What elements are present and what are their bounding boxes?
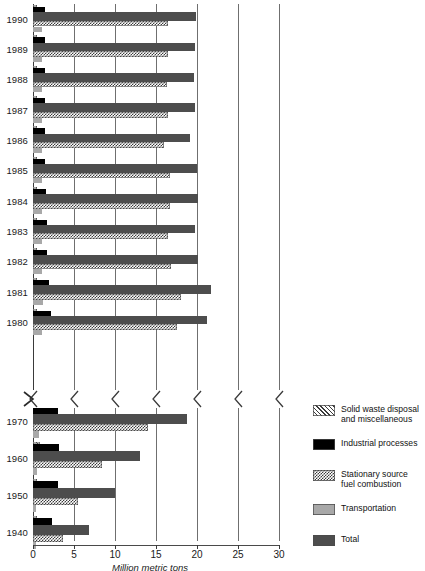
legend-label-2: Stationary sourcefuel combustion — [341, 469, 425, 490]
legend-label-4: Total — [341, 534, 425, 544]
legend-swatch-transportation — [313, 504, 335, 515]
x-tick-label-20: 20 — [185, 549, 209, 560]
x-tick-label-0: 0 — [21, 549, 45, 560]
plot-area — [0, 0, 300, 545]
chart-legend: Solid waste disposaland miscellaneousInd… — [313, 404, 425, 565]
y-axis-label-1988: 1988 — [0, 74, 28, 85]
y-axis-label-1960: 1960 — [0, 453, 28, 464]
x-tick-label-25: 25 — [226, 549, 250, 560]
y-axis-label-1989: 1989 — [0, 44, 28, 55]
legend-item-0: Solid waste disposaland miscellaneous — [313, 404, 425, 425]
y-axis-label-1987: 1987 — [0, 105, 28, 116]
y-axis-label-1982: 1982 — [0, 256, 28, 267]
legend-item-4: Total — [313, 534, 425, 552]
legend-item-3: Transportation — [313, 503, 425, 521]
x-tick-label-15: 15 — [144, 549, 168, 560]
x-tick-label-5: 5 — [62, 549, 86, 560]
x-tick-label-10: 10 — [103, 549, 127, 560]
legend-label-0: Solid waste disposaland miscellaneous — [341, 404, 425, 425]
legend-swatch-stationary — [313, 470, 335, 481]
y-axis-label-1985: 1985 — [0, 165, 28, 176]
y-axis-break-mark — [22, 391, 38, 407]
x-tick-label-30: 30 — [267, 549, 291, 560]
y-axis-label-1980: 1980 — [0, 317, 28, 328]
y-axis-label-1986: 1986 — [0, 135, 28, 146]
y-axis-label-1983: 1983 — [0, 226, 28, 237]
axis-break-marks — [0, 0, 300, 545]
legend-label-3: Transportation — [341, 503, 425, 513]
y-axis-label-1990: 1990 — [0, 14, 28, 25]
y-axis-label-1970: 1970 — [0, 416, 28, 427]
legend-swatch-industrial — [313, 439, 335, 450]
legend-label-1: Industrial processes — [341, 438, 425, 448]
legend-swatch-solid-waste — [313, 405, 335, 416]
chart-container: Million metric tons 051015202530 Solid w… — [0, 0, 425, 571]
y-axis-label-1981: 1981 — [0, 287, 28, 298]
axis-break-zigzag — [0, 390, 300, 408]
y-axis-label-1984: 1984 — [0, 196, 28, 207]
legend-swatch-total — [313, 535, 335, 546]
legend-item-2: Stationary sourcefuel combustion — [313, 469, 425, 490]
legend-item-1: Industrial processes — [313, 438, 425, 456]
y-axis-label-1950: 1950 — [0, 490, 28, 501]
y-axis-label-1940: 1940 — [0, 527, 28, 538]
x-axis-title: Million metric tons — [0, 562, 300, 571]
